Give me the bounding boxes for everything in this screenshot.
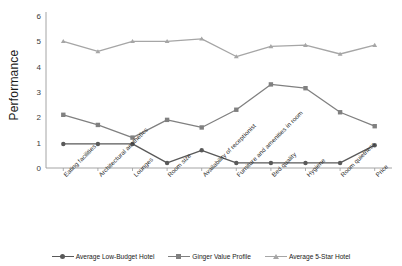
series-average-5-star-hotel xyxy=(61,36,377,58)
legend-label: Ginger Value Profile xyxy=(192,253,251,260)
data-point xyxy=(373,124,377,128)
legend-swatch-circle-icon xyxy=(52,253,74,260)
data-point xyxy=(96,123,100,127)
legend-swatch-triangle-icon xyxy=(265,253,287,260)
data-point xyxy=(303,161,307,165)
data-point xyxy=(165,161,169,165)
data-point xyxy=(269,161,273,165)
data-point xyxy=(234,161,238,165)
data-point xyxy=(234,108,238,112)
series-ginger-value-profile xyxy=(61,82,377,140)
data-point xyxy=(338,110,342,114)
series-line xyxy=(63,144,374,163)
data-point xyxy=(96,142,100,146)
series-line xyxy=(63,84,374,137)
data-point xyxy=(200,148,204,152)
plot-area xyxy=(0,0,402,266)
legend-label: Average Low-Budget Hotel xyxy=(76,253,155,260)
data-point xyxy=(200,125,204,129)
chart-legend: Average Low-Budget HotelGinger Value Pro… xyxy=(0,253,402,260)
series-line xyxy=(63,39,374,57)
data-point xyxy=(269,82,273,86)
data-point xyxy=(165,118,169,122)
data-point xyxy=(303,86,307,90)
legend-item-1[interactable]: Ginger Value Profile xyxy=(168,253,251,260)
data-point xyxy=(61,113,65,117)
data-point xyxy=(373,143,377,147)
performance-line-chart: Performance 0123456 Eating facilitiesArc… xyxy=(0,0,402,266)
data-point xyxy=(338,161,342,165)
data-point xyxy=(61,142,65,146)
data-point xyxy=(130,142,134,146)
data-point xyxy=(372,43,377,47)
series-average-low-budget-hotel xyxy=(61,142,377,165)
legend-item-2[interactable]: Average 5-Star Hotel xyxy=(265,253,350,260)
data-point xyxy=(61,39,66,43)
legend-swatch-square-icon xyxy=(168,253,190,260)
legend-item-0[interactable]: Average Low-Budget Hotel xyxy=(52,253,155,260)
data-point xyxy=(130,135,134,139)
legend-label: Average 5-Star Hotel xyxy=(289,253,350,260)
